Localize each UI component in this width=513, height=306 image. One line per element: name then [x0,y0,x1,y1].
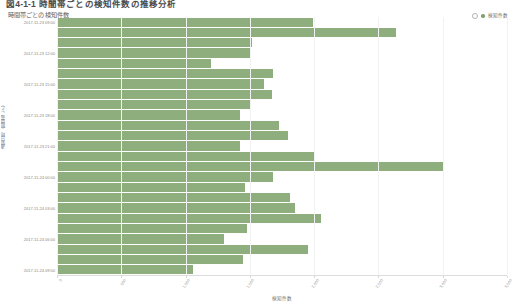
y-tick-label: 2017-11-23 12:00 [24,51,55,56]
bar-row[interactable] [57,121,507,130]
x-tick-label: 500 [119,278,127,286]
bar[interactable] [57,193,290,202]
gridline [378,17,379,275]
bar[interactable] [57,245,308,254]
bar[interactable] [57,38,252,47]
bar-row[interactable] [57,131,507,140]
x-tick-label: 3,000 [438,278,448,289]
bar[interactable] [57,203,295,212]
x-tick-label: 3,500 [503,278,513,289]
bar-row[interactable] [57,234,507,243]
y-tick-label: 2017-11-23 15:00 [24,82,55,87]
bar-row[interactable] [57,245,507,254]
bar[interactable] [57,28,396,37]
bar-row[interactable] [57,255,507,264]
y-axis-title: 通知日時（時間帯ごと） [1,103,11,149]
bar[interactable] [57,131,288,140]
x-tick-label: 2,000 [310,278,320,289]
y-tick-label: 2017-11-24 09:00 [24,267,55,272]
gridline [57,17,58,275]
bar-row[interactable] [57,48,507,57]
bar[interactable] [57,255,243,264]
bar[interactable] [57,172,273,181]
bar[interactable] [57,79,264,88]
x-tick-label: 1,000 [181,278,191,289]
bar[interactable] [57,214,321,223]
gridline [121,17,122,275]
plot-area [57,17,507,275]
bar[interactable] [57,121,279,130]
bar-row[interactable] [57,265,507,274]
bar[interactable] [57,48,251,57]
bar-row[interactable] [57,162,507,171]
bar-row[interactable] [57,79,507,88]
bar[interactable] [57,90,272,99]
bar-row[interactable] [57,183,507,192]
bar-row[interactable] [57,100,507,109]
plot-wrapper: 通知日時（時間帯ごと） 2017-11-23 09:002017-11-23 1… [0,8,512,306]
bar[interactable] [57,234,224,243]
x-tick-label: 0 [57,278,62,283]
gridline [186,17,187,275]
bar[interactable] [57,59,211,68]
y-tick-label: 2017-11-24 06:00 [24,236,55,241]
bar[interactable] [57,100,250,109]
y-tick-label: 2017-11-23 18:00 [24,113,55,118]
bar-row[interactable] [57,203,507,212]
gridline [250,17,251,275]
y-tick-label: 2017-11-23 21:00 [24,144,55,149]
bar[interactable] [57,183,245,192]
y-axis-tick-labels: 2017-11-23 09:002017-11-23 12:002017-11-… [12,17,57,275]
y-tick-label: 2017-11-24 00:00 [24,174,55,179]
bar[interactable] [57,141,240,150]
bar-row[interactable] [57,214,507,223]
bar-row[interactable] [57,18,507,27]
bar[interactable] [57,224,247,233]
x-tick-label: 2,500 [374,278,384,289]
y-tick-label: 2017-11-23 09:00 [24,20,55,25]
bar-row[interactable] [57,110,507,119]
bar-row[interactable] [57,90,507,99]
bar-row[interactable] [57,59,507,68]
gridline [443,17,444,275]
bar-row[interactable] [57,38,507,47]
bar[interactable] [57,110,240,119]
x-tick-label: 1,500 [246,278,256,289]
bar-row[interactable] [57,69,507,78]
gridline [507,17,508,275]
bar-row[interactable] [57,152,507,161]
y-tick-label: 2017-11-24 03:00 [24,205,55,210]
bar-row[interactable] [57,28,507,37]
bar-row[interactable] [57,141,507,150]
gridline [314,17,315,275]
chart-card: 時間帯ごとの検知件数 検知件数 通知日時（時間帯ごと） 2017-11-23 0… [0,8,512,306]
bar[interactable] [57,69,273,78]
bar-row[interactable] [57,224,507,233]
bar-row[interactable] [57,193,507,202]
x-axis-title: 検知件数 [57,295,507,301]
bar[interactable] [57,265,193,274]
bar-row[interactable] [57,172,507,181]
